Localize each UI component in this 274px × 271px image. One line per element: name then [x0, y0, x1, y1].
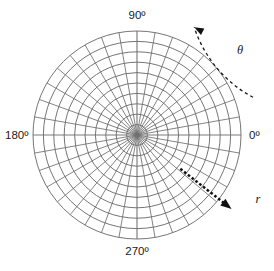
polar-diagram: 90º 180º 0º 270º θ r — [0, 0, 274, 271]
axis-label-top: 90º — [129, 9, 147, 21]
radius-arrowhead — [220, 199, 231, 209]
polar-grid-svg: 90º 180º 0º 270º θ r — [0, 0, 274, 271]
axis-label-right: 0º — [249, 129, 260, 141]
radius-arrow-line — [180, 169, 226, 205]
radius-label: r — [256, 192, 261, 206]
axis-label-bottom: 270º — [125, 245, 149, 257]
theta-label: θ — [237, 43, 243, 57]
theta-arc — [194, 27, 253, 97]
axis-label-left: 180º — [5, 129, 29, 141]
theta-annotation-group — [194, 27, 253, 97]
